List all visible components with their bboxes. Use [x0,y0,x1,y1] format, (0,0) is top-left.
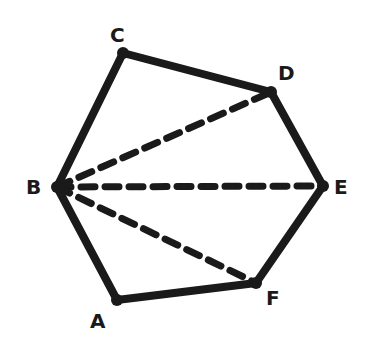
hexagon-diagram: ABCDEF [0,0,378,344]
edge-EF [256,186,323,283]
edge-DE [271,92,323,186]
vertex-label-A: A [90,309,106,333]
vertex-D [265,86,277,98]
diagonal-BD [57,92,271,187]
vertex-label-B: B [26,175,41,199]
vertex-label-C: C [110,23,125,47]
vertex-B [51,181,63,193]
edge-FA [117,283,256,300]
vertex-label-E: E [334,175,348,199]
vertex-label-D: D [278,61,295,85]
diagonal-BE [57,186,323,187]
vertex-label-F: F [266,286,280,310]
polygon-edges [51,47,329,306]
edge-BC [57,53,123,187]
vertex-A [111,294,123,306]
vertex-F [250,277,262,289]
edge-CD [123,53,271,92]
vertex-C [117,47,129,59]
vertex-E [317,180,329,192]
